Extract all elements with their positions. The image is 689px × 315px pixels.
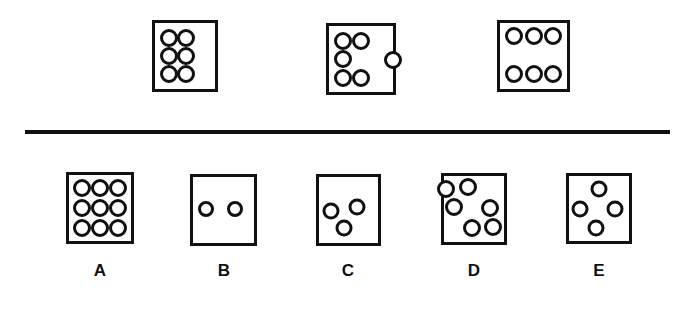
circle-dot xyxy=(349,199,366,216)
circle-dot xyxy=(606,200,623,217)
answer-options-row: ABCDE xyxy=(0,0,689,315)
circle-dot xyxy=(463,219,481,237)
option-label-D[interactable]: D xyxy=(468,262,480,279)
option-label-E[interactable]: E xyxy=(593,262,604,279)
circle-dot xyxy=(336,220,353,237)
reasoning-puzzle: ABCDE xyxy=(0,0,689,315)
circle-dot xyxy=(591,181,608,198)
answer-option-A[interactable] xyxy=(66,172,134,244)
circle-dot xyxy=(73,179,91,197)
circle-dot xyxy=(91,179,109,197)
answer-option-D[interactable] xyxy=(441,173,507,245)
answer-option-B[interactable] xyxy=(190,174,257,246)
circle-dot xyxy=(572,200,589,217)
option-label-A[interactable]: A xyxy=(94,262,106,279)
circle-dot xyxy=(73,199,91,217)
circle-dot xyxy=(481,199,499,217)
circle-dot xyxy=(109,179,127,197)
circle-dot xyxy=(484,218,502,236)
circle-dot xyxy=(588,220,605,237)
circle-dot xyxy=(437,180,455,198)
circle-dot xyxy=(323,203,340,220)
answer-option-C[interactable] xyxy=(316,174,381,246)
circle-dot xyxy=(73,219,91,237)
circle-dot xyxy=(91,199,109,217)
circle-dot xyxy=(198,201,214,217)
circle-dot xyxy=(109,199,127,217)
option-label-B[interactable]: B xyxy=(218,262,230,279)
circle-dot xyxy=(227,201,243,217)
circle-dot xyxy=(459,178,477,196)
circle-dot xyxy=(445,198,463,216)
circle-dot xyxy=(109,219,127,237)
answer-option-E[interactable] xyxy=(566,173,632,244)
option-label-C[interactable]: C xyxy=(342,262,354,279)
circle-dot xyxy=(91,219,109,237)
